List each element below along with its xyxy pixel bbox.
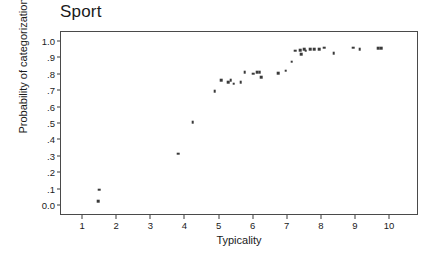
data-point xyxy=(98,188,101,191)
data-point xyxy=(243,71,246,74)
x-tick-mark xyxy=(184,215,185,219)
data-points-layer xyxy=(61,32,417,214)
data-point xyxy=(358,48,361,51)
x-tick-mark xyxy=(150,215,151,219)
data-point xyxy=(191,121,194,124)
x-tick-label: 5 xyxy=(216,220,221,231)
x-tick-label: 8 xyxy=(318,220,323,231)
data-point xyxy=(258,71,261,74)
y-tick-label: .1 xyxy=(47,183,55,194)
x-tick-label: 4 xyxy=(182,220,187,231)
y-tick-label: 1.0 xyxy=(42,35,55,46)
x-axis-label: Typicality xyxy=(60,234,418,246)
y-tick-label: 0.0 xyxy=(42,200,55,211)
data-point xyxy=(177,152,180,155)
y-axis-tick-labels: 0.0.1.2.3.4.5.6.7.8.91.0 xyxy=(22,31,55,215)
y-tick-label: .3 xyxy=(47,150,55,161)
x-tick-mark xyxy=(82,215,83,219)
plot-area xyxy=(60,31,418,215)
data-point xyxy=(239,81,242,84)
data-point xyxy=(291,60,294,63)
y-tick-label: .4 xyxy=(47,134,55,145)
data-point xyxy=(213,90,216,93)
data-point xyxy=(220,79,223,82)
x-tick-label: 6 xyxy=(250,220,255,231)
data-point xyxy=(294,50,297,53)
data-point xyxy=(252,73,255,76)
data-point xyxy=(332,52,335,55)
x-tick-label: 10 xyxy=(384,220,395,231)
chart-title: Sport xyxy=(60,2,102,22)
x-tick-label: 1 xyxy=(80,220,85,231)
data-point xyxy=(380,47,383,50)
x-tick-mark xyxy=(252,215,253,219)
x-axis-tick-labels: 12345678910 xyxy=(60,220,418,234)
x-tick-mark xyxy=(116,215,117,219)
y-tick-label: .7 xyxy=(47,85,55,96)
x-tick-mark xyxy=(389,215,390,219)
data-point xyxy=(309,48,312,51)
x-tick-label: 7 xyxy=(284,220,289,231)
scatter-plot-figure: Sport Probability of categorization 0.0.… xyxy=(0,0,435,260)
y-tick-label: .6 xyxy=(47,101,55,112)
data-point xyxy=(318,48,321,51)
y-tick-label: .9 xyxy=(47,52,55,63)
x-tick-label: 2 xyxy=(114,220,119,231)
y-tick-label: .2 xyxy=(47,167,55,178)
data-point xyxy=(284,69,287,72)
data-point xyxy=(229,79,232,82)
data-point xyxy=(232,82,235,85)
data-point xyxy=(300,53,303,56)
data-point xyxy=(323,46,326,49)
x-tick-label: 3 xyxy=(148,220,153,231)
data-point xyxy=(305,50,308,53)
x-tick-mark xyxy=(354,215,355,219)
x-tick-label: 9 xyxy=(352,220,357,231)
data-point xyxy=(97,200,100,203)
data-point xyxy=(299,49,302,52)
data-point xyxy=(352,46,355,49)
y-tick-label: .8 xyxy=(47,68,55,79)
x-tick-mark xyxy=(218,215,219,219)
y-tick-label: .5 xyxy=(47,118,55,129)
data-point xyxy=(277,72,280,75)
x-tick-mark xyxy=(286,215,287,219)
data-point xyxy=(313,48,316,51)
x-tick-mark xyxy=(320,215,321,219)
data-point xyxy=(260,76,263,79)
